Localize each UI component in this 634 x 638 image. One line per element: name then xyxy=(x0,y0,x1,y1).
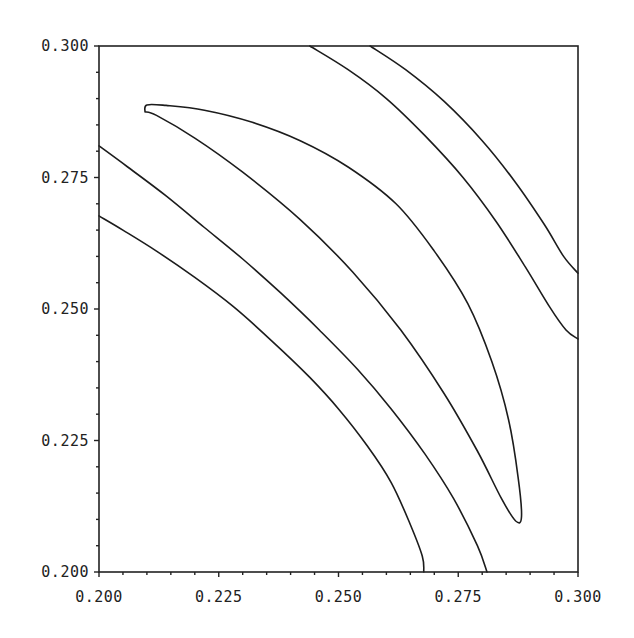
y-tick-label: 0.200 xyxy=(41,563,89,581)
y-tick-label: 0.225 xyxy=(41,432,89,450)
x-tick-label: 0.275 xyxy=(434,588,482,606)
y-tick-label: 0.300 xyxy=(41,37,89,55)
contour-line-5 xyxy=(370,46,578,273)
contour-line-4 xyxy=(310,46,578,339)
contour-lines xyxy=(99,46,578,572)
contour-chart: 0.2000.2250.2500.2750.300 0.2000.2250.25… xyxy=(0,0,634,638)
x-tick-label: 0.250 xyxy=(315,588,363,606)
plot-frame xyxy=(99,46,578,572)
x-tick-label: 0.225 xyxy=(195,588,243,606)
contour-line-1 xyxy=(99,216,424,572)
x-axis: 0.2000.2250.2500.2750.300 xyxy=(75,572,602,606)
x-tick-label: 0.300 xyxy=(554,588,602,606)
contour-line-2 xyxy=(99,146,487,572)
y-tick-label: 0.275 xyxy=(41,169,89,187)
x-tick-label: 0.200 xyxy=(75,588,123,606)
y-tick-label: 0.250 xyxy=(41,300,89,318)
contour-line-3 xyxy=(145,104,522,522)
y-axis: 0.2000.2250.2500.2750.300 xyxy=(41,37,99,581)
